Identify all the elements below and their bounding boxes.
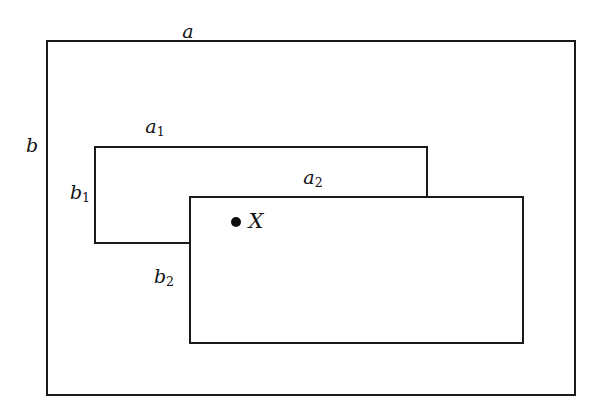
point-label-x: X (249, 211, 264, 232)
point-marker-dot-icon (231, 217, 241, 227)
label-a-text: a (182, 20, 193, 42)
label-b: b (26, 136, 38, 155)
label-b2: b2 (154, 267, 174, 289)
label-a2-text: a (303, 166, 314, 188)
label-a2-subscript: 2 (315, 175, 323, 190)
label-b2-text: b (154, 265, 166, 287)
label-a: a (182, 22, 193, 41)
label-a2: a2 (303, 168, 322, 190)
label-b2-subscript: 2 (166, 274, 174, 289)
label-b1: b1 (70, 183, 90, 205)
set-diagram-figure: a b a1 b1 a2 b2 X (0, 0, 600, 418)
label-a1: a1 (145, 117, 164, 139)
label-a1-subscript: 1 (157, 124, 165, 139)
label-b1-subscript: 1 (82, 190, 90, 205)
label-b-text: b (26, 134, 38, 156)
label-b1-text: b (70, 181, 82, 203)
label-a1-text: a (145, 115, 156, 137)
